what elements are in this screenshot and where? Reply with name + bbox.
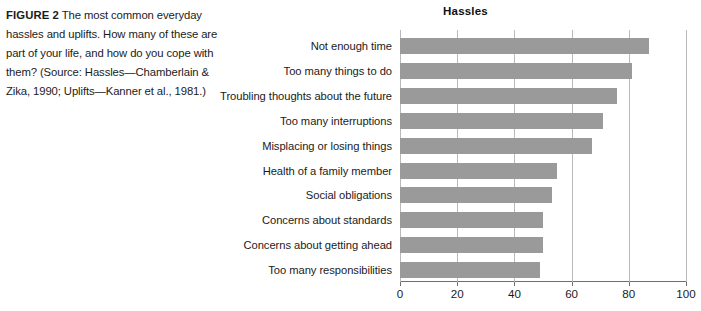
category-label: Not enough time bbox=[311, 36, 392, 56]
x-tick-mark bbox=[514, 282, 515, 286]
bar bbox=[400, 187, 552, 203]
category-label: Health of a family member bbox=[263, 161, 392, 181]
bar-row: Troubling thoughts about the future bbox=[400, 88, 617, 104]
category-label: Too many interruptions bbox=[280, 111, 392, 131]
x-axis-line bbox=[400, 281, 686, 282]
bar-row: Too many things to do bbox=[400, 63, 632, 79]
category-label: Concerns about standards bbox=[262, 210, 392, 230]
x-tick-mark bbox=[457, 282, 458, 286]
bar-row: Concerns about standards bbox=[400, 212, 543, 228]
figure-caption: FIGURE 2 The most common everyday hassle… bbox=[6, 6, 228, 101]
x-tick-label: 60 bbox=[565, 287, 578, 300]
category-label: Misplacing or losing things bbox=[262, 136, 392, 156]
bar-row: Health of a family member bbox=[400, 163, 557, 179]
chart-title: Hassles bbox=[230, 5, 701, 17]
bar-row: Concerns about getting ahead bbox=[400, 237, 543, 253]
x-tick-label: 80 bbox=[622, 287, 635, 300]
category-label: Troubling thoughts about the future bbox=[220, 86, 392, 106]
category-label: Concerns about getting ahead bbox=[243, 235, 392, 255]
bar-row: Too many responsibilities bbox=[400, 262, 540, 278]
bar bbox=[400, 88, 617, 104]
x-tick-label: 0 bbox=[397, 287, 403, 300]
category-label: Social obligations bbox=[306, 185, 392, 205]
x-tick-mark bbox=[686, 282, 687, 286]
bar bbox=[400, 38, 649, 54]
x-tick-mark bbox=[400, 282, 401, 286]
hassles-bar-chart: Hassles 020406080100Not enough timeToo m… bbox=[230, 0, 701, 311]
bar bbox=[400, 63, 632, 79]
bar-row: Misplacing or losing things bbox=[400, 138, 592, 154]
bar bbox=[400, 163, 557, 179]
bar-row: Social obligations bbox=[400, 187, 552, 203]
bar bbox=[400, 237, 543, 253]
bar bbox=[400, 212, 543, 228]
bar bbox=[400, 113, 603, 129]
category-label: Too many responsibilities bbox=[268, 260, 392, 280]
x-tick-mark bbox=[629, 282, 630, 286]
bar-row: Too many interruptions bbox=[400, 113, 603, 129]
x-tick-label: 20 bbox=[451, 287, 464, 300]
x-tick-label: 100 bbox=[676, 287, 695, 300]
category-label: Too many things to do bbox=[284, 61, 392, 81]
x-tick-mark bbox=[572, 282, 573, 286]
figure-caption-text: The most common everyday hassles and upl… bbox=[6, 9, 217, 97]
bar bbox=[400, 138, 592, 154]
bar bbox=[400, 262, 540, 278]
bar-row: Not enough time bbox=[400, 38, 649, 54]
x-tick-label: 40 bbox=[508, 287, 521, 300]
plot-area: 020406080100Not enough timeToo many thin… bbox=[400, 30, 686, 282]
x-gridline bbox=[686, 30, 687, 282]
figure-label: FIGURE 2 bbox=[6, 9, 59, 21]
